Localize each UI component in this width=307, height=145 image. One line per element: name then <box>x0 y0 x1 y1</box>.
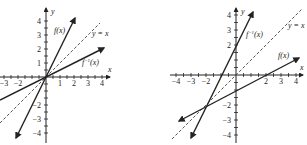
tick-label: 4 <box>37 17 41 26</box>
left-graph: −3 −2 1 2 3 4 4 3 2 1 −2 −3 −4 y x f(x) … <box>0 7 112 143</box>
label-f-inverse: f−1(x) <box>246 30 263 39</box>
right-graph: −4 −3 −2 2 3 4 4 3 2 −2 −3 −4 y x f−1(x)… <box>170 7 305 143</box>
tick-label: 1 <box>58 79 62 88</box>
tick-label: −4 <box>32 129 41 138</box>
tick-label: 2 <box>72 79 76 88</box>
label-f-inverse: f−1(x) <box>82 58 99 67</box>
label-y-equals-x: y = x <box>91 29 109 38</box>
tick-label: −4 <box>172 77 181 86</box>
tick-label: 4 <box>227 11 231 20</box>
tick-label: −2 <box>202 77 211 86</box>
x-axis-label: x <box>299 63 304 72</box>
tick-label: −3 <box>32 115 41 124</box>
label-y-equals-x: y = x <box>287 21 305 30</box>
label-f: f(x) <box>54 26 65 35</box>
tick-label: 2 <box>37 45 41 54</box>
tick-label: 2 <box>264 77 268 86</box>
label-f: f(x) <box>278 51 289 60</box>
line-y-equals-x <box>0 23 100 123</box>
tick-label: 3 <box>37 31 41 40</box>
tick-label: −4 <box>222 131 231 140</box>
tick-label: 3 <box>279 77 283 86</box>
tick-label: −3 <box>0 79 8 88</box>
tick-label: 1 <box>37 59 41 68</box>
tick-label: 4 <box>294 77 298 86</box>
tick-label: 4 <box>100 79 104 88</box>
tick-label: 2 <box>227 41 231 50</box>
tick-label: 3 <box>227 26 231 35</box>
tick-label: −2 <box>222 101 231 110</box>
tick-label: −3 <box>187 77 196 86</box>
line-y-equals-x <box>172 9 302 139</box>
y-axis-label: y <box>50 7 55 16</box>
line-f-inverse <box>0 48 104 100</box>
tick-label: 3 <box>86 79 90 88</box>
y-axis-label: y <box>240 7 245 16</box>
tick-label: −2 <box>14 79 23 88</box>
line-f <box>179 58 299 121</box>
figure: −3 −2 1 2 3 4 4 3 2 1 −2 −3 −4 y x f(x) … <box>0 0 307 145</box>
x-axis-label: x <box>107 65 112 74</box>
tick-label: −3 <box>222 116 231 125</box>
